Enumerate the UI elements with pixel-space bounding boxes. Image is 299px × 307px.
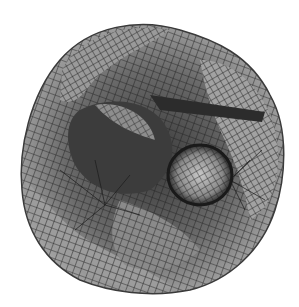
mesh-surface xyxy=(0,0,299,307)
surface-figure xyxy=(0,0,299,307)
